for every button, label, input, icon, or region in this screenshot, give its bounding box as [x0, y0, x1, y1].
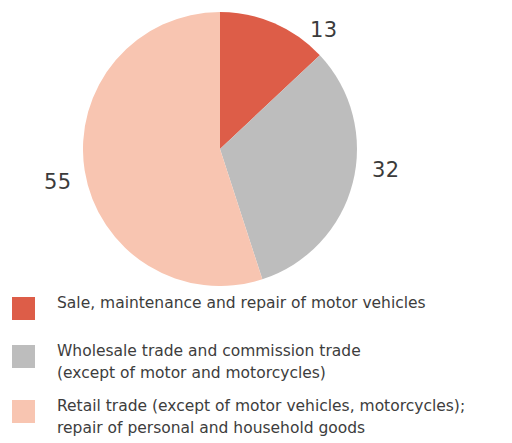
legend-item-label-0: Sale, maintenance and repair of motor ve… [57, 292, 509, 314]
pie-chart-svg [83, 12, 357, 286]
legend-color-swatch-icon-2 [12, 400, 35, 423]
legend-item-label-2: Retail trade (except of motor vehicles, … [57, 395, 509, 439]
pie-chart-plot-area: 13 32 55 [0, 0, 512, 292]
legend-item-label-1: Wholesale trade and commission trade (ex… [57, 340, 509, 384]
pie-slice-value-label-2: 55 [44, 172, 72, 193]
legend-color-swatch-icon-0 [12, 297, 35, 320]
pie-slice-group [83, 12, 357, 286]
pie-chart-page: 13 32 55 Sale, maintenance and repair of… [0, 0, 512, 443]
pie-slice-value-label-0: 13 [310, 20, 338, 41]
legend-color-swatch-icon-1 [12, 345, 35, 368]
chart-legend: Sale, maintenance and repair of motor ve… [0, 292, 512, 443]
pie-slice-value-label-1: 32 [372, 160, 400, 181]
